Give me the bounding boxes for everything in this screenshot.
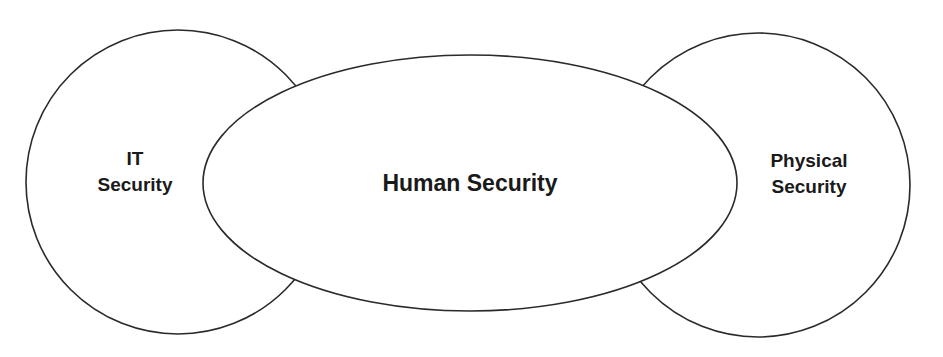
it-security-label-line1: IT (127, 148, 144, 169)
human-security-label: Human Security (382, 170, 557, 196)
security-diagram: IT Security Human Security Physical Secu… (0, 0, 943, 357)
physical-security-label-line1: Physical (770, 150, 847, 171)
physical-security-label-line2: Security (772, 176, 847, 197)
it-security-label-line2: Security (98, 174, 173, 195)
